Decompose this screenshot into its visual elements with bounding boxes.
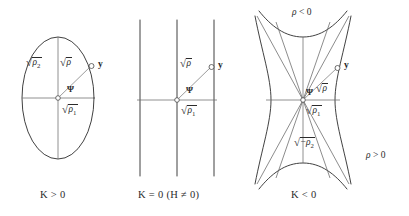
label-region-rho-positive: ρ > 0 [366,151,385,161]
label-sqrt-rho2-panel1: √ρ2 [26,56,42,70]
label-sqrt-rho-panel2: √ρ [180,57,192,69]
label-sqrt-rho-panel1: √ρ [60,56,72,68]
label-point-y-panel1: y [98,60,103,70]
parallel-radius-segment [177,67,211,100]
label-psi-panel1: Ψ [67,85,74,94]
label-sqrt-rho1-panel2: √ρ1 [181,104,197,118]
caption-panel-k-negative: K < 0 [291,190,317,201]
label-region-rho-negative: ρ < 0 [292,8,311,18]
hyperbola-point-y-marker [335,66,340,71]
label-sqrt-rho-panel3: √ρ [316,82,328,94]
label-point-y-panel2: y [218,61,223,71]
label-point-y-panel3: y [344,61,349,71]
panel-k-negative-graphics [255,11,351,189]
ellipse-center-marker [56,96,61,101]
hyperbola-branch-bottom [259,163,347,189]
label-sqrt-neg-rho2-panel3: √−ρ2 [294,136,315,150]
hyperbola-center-marker [301,98,306,103]
panel-k-zero-graphics [137,20,217,176]
parallel-center-marker [175,98,180,103]
ellipse-point-y-marker [89,64,94,69]
caption-panel-k-positive: K > 0 [40,190,66,201]
figure-root: √ρ2 √ρ y Ψ √ρ1 K > 0 √ρ y Ψ √ρ1 K = 0 (H… [0,0,409,216]
ellipse-radius-segment [58,66,91,98]
label-sqrt-rho1-panel1: √ρ1 [62,103,78,117]
parallel-point-y-marker [209,65,214,70]
label-psi-panel3: Ψ [306,88,313,97]
label-sqrt-rho1-panel3: √ρ1 [306,104,322,118]
caption-panel-k-zero: K = 0 (H ≠ 0) [138,190,199,201]
label-psi-panel2: Ψ [186,86,193,95]
